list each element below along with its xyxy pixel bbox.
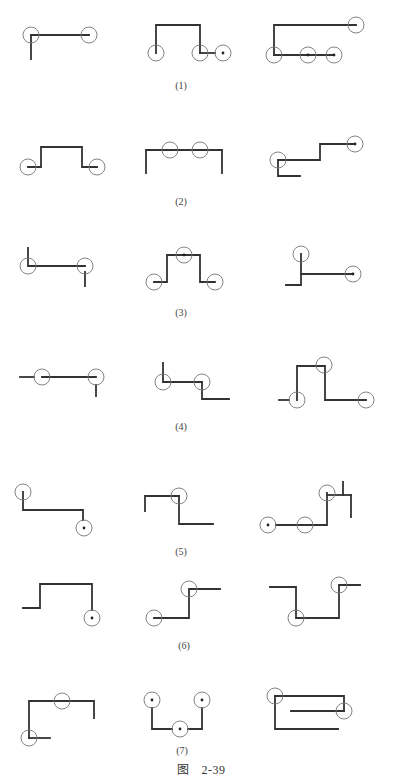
pipe-diagram <box>146 247 223 290</box>
pipe-line <box>275 696 338 729</box>
pipe-line <box>270 585 360 618</box>
diagram-group-6 <box>23 577 360 626</box>
group-label: (1) <box>175 80 187 91</box>
pipe-line <box>278 144 355 160</box>
pipe-diagram <box>267 688 352 729</box>
pipe-line <box>146 150 222 173</box>
diagram-group-3 <box>20 246 361 290</box>
center-dot-icon <box>183 254 186 257</box>
pipe-line <box>23 584 92 610</box>
pipe-diagram <box>146 142 222 173</box>
group-label: (4) <box>175 421 187 432</box>
pipe-diagram <box>20 147 105 175</box>
pipe-diagram <box>144 692 210 737</box>
group-label: (3) <box>175 307 187 318</box>
pipe-line <box>28 147 97 167</box>
center-dot-icon <box>352 273 355 276</box>
pipe-line <box>276 493 327 525</box>
pipe-line <box>202 382 229 399</box>
center-dot-icon <box>91 617 94 620</box>
group-label: (5) <box>175 546 187 557</box>
pipe-diagram <box>266 17 364 63</box>
pipe-diagram <box>20 369 104 396</box>
pipe-diagram <box>279 357 374 408</box>
pipe-line <box>275 696 344 711</box>
center-dot-icon <box>179 728 182 731</box>
pipe-diagram <box>145 488 213 524</box>
center-dot-icon <box>307 54 310 57</box>
pipe-line <box>154 255 215 282</box>
center-dot-icon <box>222 52 225 55</box>
pipe-diagram <box>146 581 220 626</box>
group-label: (6) <box>178 640 190 651</box>
center-dot-icon <box>267 524 270 527</box>
diagram-group-5 <box>15 482 351 536</box>
pipe-line <box>188 708 202 729</box>
pipe-line <box>297 366 324 400</box>
diagram-group-1 <box>23 17 364 63</box>
pipe-line <box>154 589 220 618</box>
pipe-diagram <box>286 246 361 285</box>
pipe-diagram <box>15 484 92 536</box>
diagram-group-2 <box>20 136 363 176</box>
pipe-diagram <box>155 363 229 399</box>
pipe-diagram <box>270 136 363 176</box>
pipe-line <box>179 496 213 524</box>
pipe-diagram <box>20 248 93 286</box>
diagram-group-4 <box>20 357 374 408</box>
pipe-diagram <box>260 482 351 533</box>
pipe-line <box>145 496 179 511</box>
figure-caption: 图 2-39 <box>177 760 226 778</box>
pipe-line <box>163 363 202 382</box>
pipe-diagram <box>23 27 97 59</box>
group-label: (2) <box>175 196 187 207</box>
diagram-group-7 <box>21 688 352 746</box>
pipe-diagram <box>270 577 360 626</box>
pipe-line <box>286 254 301 285</box>
pipe-away-viewer-icon <box>316 357 332 373</box>
figure-canvas <box>0 0 402 782</box>
group-label: (7) <box>176 745 188 756</box>
pipe-line <box>278 160 300 176</box>
pipe-line <box>23 492 83 520</box>
center-dot-icon <box>201 699 204 702</box>
pipe-diagram <box>23 584 100 626</box>
center-dot-icon <box>354 143 357 146</box>
center-dot-icon <box>83 527 86 530</box>
pipe-line <box>29 701 94 738</box>
pipe-diagram <box>148 25 231 61</box>
pipe-diagram <box>21 693 94 746</box>
pipe-line <box>28 248 85 266</box>
center-dot-icon <box>151 699 154 702</box>
pipe-line <box>152 708 172 729</box>
center-dot-icon <box>333 54 336 57</box>
